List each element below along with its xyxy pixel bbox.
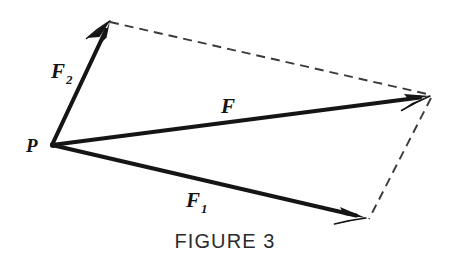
figure-container: P F2 F F1 FIGURE 3: [0, 0, 452, 261]
label-vector-f2-subscript: 2: [65, 72, 73, 87]
label-vector-f1-subscript: 1: [201, 201, 208, 216]
origin-point-marker: [50, 142, 56, 148]
label-vector-f2-base: F: [50, 59, 65, 83]
label-point-p: P: [25, 135, 38, 156]
label-vector-f1-base: F: [185, 188, 200, 212]
figure-caption: FIGURE 3: [174, 230, 275, 252]
vector-diagram: P F2 F F1 FIGURE 3: [0, 0, 452, 261]
diagram-background: [0, 0, 452, 261]
label-vector-f: F: [220, 94, 235, 118]
